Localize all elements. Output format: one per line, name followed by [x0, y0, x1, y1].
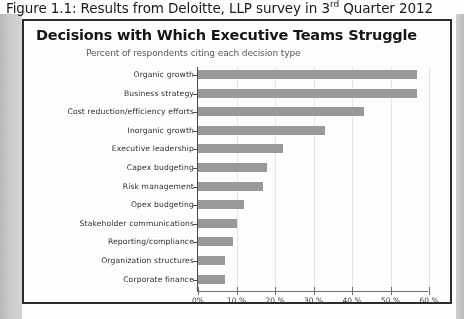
- x-axis-tick-label: 10 %: [227, 296, 246, 304]
- bar-row[interactable]: Business strategy: [24, 88, 452, 100]
- bar[interactable]: [198, 126, 325, 135]
- bar[interactable]: [198, 144, 283, 153]
- figure-caption-suffix: Quarter 2012: [339, 0, 433, 16]
- bar[interactable]: [198, 237, 233, 246]
- bar[interactable]: [198, 70, 417, 79]
- scanned-page: Figure 1.1: Results from Deloitte, LLP s…: [0, 0, 464, 319]
- bar-category-label: Cost reduction/efficiency efforts: [68, 107, 195, 116]
- bar[interactable]: [198, 182, 263, 191]
- chart-container: Decisions with Which Executive Teams Str…: [22, 19, 452, 304]
- x-axis-tick: [429, 287, 430, 295]
- bar-row[interactable]: Organic growth: [24, 69, 452, 81]
- x-axis-line: [197, 291, 428, 292]
- x-axis-tick: [237, 287, 238, 295]
- y-axis-tick: [193, 261, 198, 262]
- bar-category-label: Inorganic growth: [128, 126, 195, 135]
- bar-category-label: Risk management: [123, 182, 194, 191]
- x-axis-tick: [314, 287, 315, 295]
- x-axis-tick-label: 0%: [192, 296, 204, 304]
- bar[interactable]: [198, 107, 364, 116]
- bar-row[interactable]: Stakeholder communications: [24, 218, 452, 230]
- bar-category-label: Corporate finance: [123, 275, 194, 284]
- bar-category-label: Organic growth: [134, 70, 194, 79]
- bar-row[interactable]: Executive leadership: [24, 143, 452, 155]
- page-gutter-right: [456, 14, 464, 319]
- y-axis-tick: [193, 242, 198, 243]
- bar[interactable]: [198, 89, 417, 98]
- y-axis-tick: [193, 205, 198, 206]
- bar-category-label: Reporting/compliance: [108, 237, 194, 246]
- bar-row[interactable]: Organization structures: [24, 255, 452, 267]
- bar[interactable]: [198, 256, 225, 265]
- figure-caption-prefix: Figure 1.1: Results from Deloitte, LLP s…: [6, 0, 330, 16]
- x-axis-tick-label: 60 %: [419, 296, 438, 304]
- y-axis-tick: [193, 187, 198, 188]
- x-axis-tick-label: 30 %: [304, 296, 323, 304]
- x-axis-tick: [198, 287, 199, 295]
- bar[interactable]: [198, 200, 244, 209]
- bar-row[interactable]: Opex budgeting: [24, 199, 452, 211]
- bar-row[interactable]: Inorganic growth: [24, 125, 452, 137]
- y-axis-tick: [193, 168, 198, 169]
- bar-row[interactable]: Capex budgeting: [24, 162, 452, 174]
- bar-row[interactable]: Risk management: [24, 181, 452, 193]
- y-axis-tick: [193, 75, 198, 76]
- y-axis-line: [197, 67, 198, 291]
- bar-category-label: Capex budgeting: [127, 163, 194, 172]
- y-axis-tick: [193, 149, 198, 150]
- plot-area: Organic growthBusiness strategyCost redu…: [24, 63, 452, 304]
- y-axis-tick: [193, 224, 198, 225]
- bar-category-label: Opex budgeting: [131, 200, 194, 209]
- bar-row[interactable]: Cost reduction/efficiency efforts: [24, 106, 452, 118]
- x-axis-tick: [275, 287, 276, 295]
- y-axis-tick: [193, 94, 198, 95]
- bar[interactable]: [198, 163, 267, 172]
- x-axis-tick: [352, 287, 353, 295]
- bar-category-label: Stakeholder communications: [80, 219, 194, 228]
- x-axis-tick-label: 20 %: [265, 296, 284, 304]
- figure-caption-superscript: rd: [330, 0, 339, 9]
- y-axis-tick: [193, 112, 198, 113]
- chart-subtitle: Percent of respondents citing each decis…: [86, 48, 301, 58]
- bar-row[interactable]: Reporting/compliance: [24, 236, 452, 248]
- x-axis-tick-label: 40 %: [342, 296, 361, 304]
- chart-title: Decisions with Which Executive Teams Str…: [36, 27, 417, 43]
- bar-row[interactable]: Corporate finance: [24, 274, 452, 286]
- y-axis-tick: [193, 131, 198, 132]
- bar[interactable]: [198, 275, 225, 284]
- figure-caption: Figure 1.1: Results from Deloitte, LLP s…: [6, 0, 464, 16]
- bar[interactable]: [198, 219, 237, 228]
- y-axis-tick: [193, 280, 198, 281]
- x-axis-tick-label: 50 %: [381, 296, 400, 304]
- bar-category-label: Business strategy: [124, 89, 194, 98]
- x-axis-tick: [391, 287, 392, 295]
- bar-category-label: Organization structures: [101, 256, 194, 265]
- bar-category-label: Executive leadership: [112, 144, 194, 153]
- page-gutter-left: [0, 14, 22, 319]
